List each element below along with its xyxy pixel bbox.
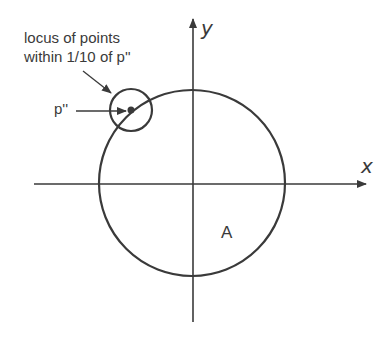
point-p-dot	[128, 107, 135, 114]
locus-arrow	[83, 71, 111, 93]
y-axis-label: y	[201, 16, 213, 40]
point-label: p''	[54, 100, 68, 118]
region-label: A	[221, 224, 232, 242]
region-a-circle	[99, 90, 285, 276]
annotation-line-2: within 1/10 of p''	[24, 48, 131, 66]
x-axis-label: x	[361, 154, 373, 178]
annotation-line-1: locus of points	[24, 29, 120, 47]
